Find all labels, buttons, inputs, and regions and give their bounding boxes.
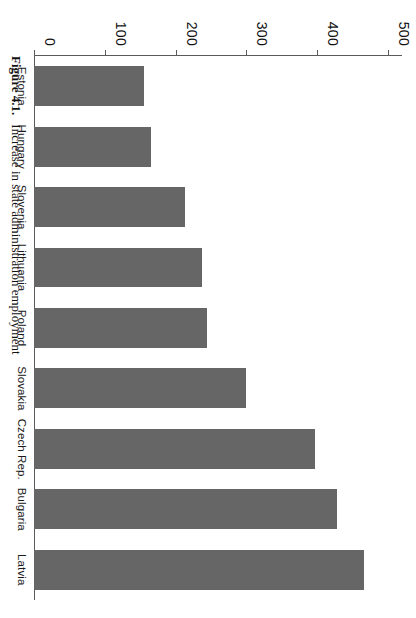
bar <box>34 187 185 227</box>
category-label: Slovenia <box>16 177 28 237</box>
value-axis: 0100200300400500 <box>34 0 402 56</box>
bar <box>34 489 337 529</box>
bar <box>34 127 151 167</box>
axis-tick-label: 500 <box>396 22 412 46</box>
category-label: Bulgaria <box>16 479 28 539</box>
rotated-figure-container: 0100200300400500 EstoniaHungarySloveniaL… <box>0 0 416 618</box>
bar <box>34 429 315 469</box>
plot-wrapper: 0100200300400500 EstoniaHungarySloveniaL… <box>34 0 416 618</box>
category-label: Slovakia <box>16 358 28 418</box>
bar <box>34 66 144 106</box>
axis-tick-label: 300 <box>254 22 270 46</box>
category-label: Latvia <box>16 540 28 600</box>
axis-tick-label: 200 <box>184 22 200 46</box>
bar <box>34 368 246 408</box>
plot-area: EstoniaHungarySloveniaLithuaniaPolandSlo… <box>34 56 402 600</box>
bar <box>34 308 207 348</box>
bar <box>34 248 202 288</box>
bar <box>34 550 364 590</box>
axis-tick-label: 400 <box>325 22 341 46</box>
category-label: Czech Rep. <box>16 419 28 479</box>
category-label: Estonia <box>16 56 28 116</box>
axis-tick-label: 0 <box>42 38 58 46</box>
category-label: Lithuania <box>16 237 28 297</box>
figure: 0100200300400500 EstoniaHungarySloveniaL… <box>0 0 416 618</box>
category-label: Poland <box>16 298 28 358</box>
axis-tick-label: 100 <box>113 22 129 46</box>
category-label: Hungary <box>16 116 28 176</box>
